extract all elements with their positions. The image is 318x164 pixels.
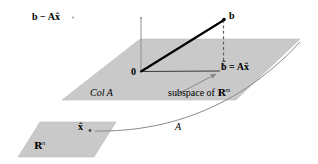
domain-exponent: n [42, 139, 45, 146]
xhat-point-dot [89, 129, 92, 132]
axis-top-dot [140, 17, 142, 19]
subspace-exponent: m [225, 86, 230, 93]
origin-label: 0 [131, 67, 136, 77]
rn-plane [18, 122, 116, 157]
residual-label: b − Ax̂ [32, 12, 60, 22]
xhat-label: x̂ [78, 122, 83, 132]
subspace-prefix-text: subspace of [168, 87, 217, 98]
col-a-label: Col A [90, 88, 113, 98]
diagram-canvas [0, 0, 318, 164]
least-squares-diagram: b − Ax̂ b b̂ = Ax̂ 0 Col A subspace of R… [0, 0, 318, 164]
b-label: b [229, 11, 235, 21]
bhat-label: b̂ = Ax̂ [221, 62, 249, 72]
domain-R-symbol: R [34, 140, 42, 151]
bhat-vector-line [141, 71, 220, 72]
residual-label-dot [72, 17, 74, 19]
rn-label: Rn [34, 141, 45, 151]
b-point-dot [222, 18, 226, 22]
subspace-label: subspace of Rm [168, 88, 230, 98]
map-label: A [175, 122, 181, 132]
